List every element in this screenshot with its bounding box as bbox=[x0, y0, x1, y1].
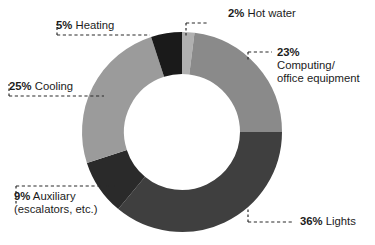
donut-chart: 2% Hot water 23% Computing/ office equip… bbox=[0, 0, 375, 245]
callout-auxiliary[interactable]: 9% Auxiliary (escalators, etc.) bbox=[14, 190, 98, 216]
callout-heating-value: 5% bbox=[56, 19, 72, 31]
slice-lights[interactable] bbox=[132, 132, 261, 211]
slice-heating[interactable] bbox=[158, 53, 182, 57]
callout-hot-water[interactable]: 2% Hot water bbox=[228, 7, 296, 20]
callout-auxiliary-label-line1: Auxiliary bbox=[33, 190, 76, 202]
callout-lights-label: Lights bbox=[326, 215, 356, 227]
callout-computing-label-line1: Computing/ bbox=[277, 59, 360, 72]
slice-cooling[interactable] bbox=[103, 57, 158, 157]
callout-heating[interactable]: 5% Heating bbox=[56, 19, 114, 32]
callout-computing-label-line2: office equipment bbox=[277, 72, 360, 85]
callout-auxiliary-value: 9% bbox=[14, 190, 30, 202]
callout-hot-water-label: Hot water bbox=[247, 7, 295, 19]
callout-cooling-value: 25% bbox=[9, 80, 32, 92]
callout-cooling[interactable]: 25% Cooling bbox=[9, 80, 73, 93]
slice-hot-water[interactable] bbox=[182, 53, 192, 54]
callout-computing-value: 23% bbox=[277, 46, 300, 58]
slice-auxiliary[interactable] bbox=[107, 156, 132, 192]
callout-auxiliary-label-line2: (escalators, etc.) bbox=[14, 203, 98, 216]
callout-cooling-label: Cooling bbox=[35, 80, 73, 92]
slice-computing[interactable] bbox=[192, 54, 261, 132]
callout-lights-value: 36% bbox=[300, 215, 323, 227]
callout-heating-label: Heating bbox=[75, 19, 114, 31]
donut-ring bbox=[103, 53, 261, 211]
callout-hot-water-value: 2% bbox=[228, 7, 244, 19]
callout-computing[interactable]: 23% Computing/ office equipment bbox=[277, 46, 360, 86]
callout-lights[interactable]: 36% Lights bbox=[300, 215, 356, 228]
